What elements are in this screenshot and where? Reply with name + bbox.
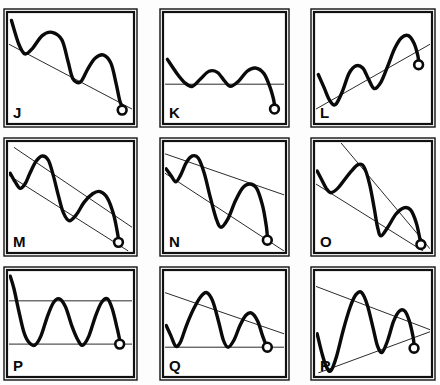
current-price-marker[interactable] <box>263 236 272 245</box>
panel-label-p: P <box>13 357 23 374</box>
current-price-marker[interactable] <box>270 105 279 114</box>
pattern-figure: JKLMNOPQR <box>0 0 440 385</box>
panel-label-r: R <box>320 357 331 374</box>
current-price-marker[interactable] <box>115 340 124 349</box>
panel-label-j: J <box>13 104 21 121</box>
panel-label-m: M <box>13 233 26 250</box>
current-price-marker[interactable] <box>263 343 272 352</box>
current-price-marker[interactable] <box>114 238 123 247</box>
panel-label-l: L <box>320 104 329 121</box>
current-price-marker[interactable] <box>414 60 423 69</box>
panel-label-k: K <box>169 104 180 121</box>
pattern-panel-j[interactable]: J <box>4 9 137 127</box>
panel-label-o: O <box>320 233 332 250</box>
panel-border-inner <box>163 12 286 124</box>
current-price-marker[interactable] <box>410 344 419 353</box>
pattern-panel-n[interactable]: N <box>160 138 289 256</box>
pattern-panel-m[interactable]: M <box>4 138 137 256</box>
pattern-panel-o[interactable]: O <box>311 138 435 256</box>
panel-border-inner <box>163 270 286 377</box>
panel-label-n: N <box>169 233 180 250</box>
pattern-panel-l[interactable]: L <box>311 9 435 127</box>
pattern-panel-r[interactable]: R <box>311 267 435 380</box>
panel-border-inner <box>7 141 134 253</box>
pattern-panel-p[interactable]: P <box>4 267 137 380</box>
current-price-marker[interactable] <box>416 240 425 249</box>
pattern-panel-q[interactable]: Q <box>160 267 289 380</box>
panel-label-q: Q <box>169 357 181 374</box>
current-price-marker[interactable] <box>118 106 127 115</box>
pattern-panel-k[interactable]: K <box>160 9 289 127</box>
